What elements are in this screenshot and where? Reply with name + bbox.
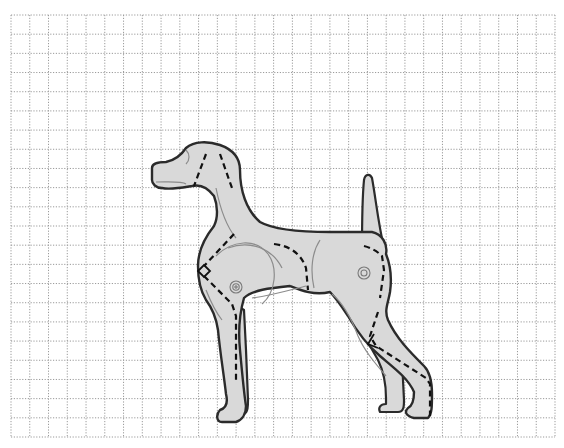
dog-pattern-diagram bbox=[0, 0, 564, 448]
grid-background bbox=[11, 15, 555, 437]
